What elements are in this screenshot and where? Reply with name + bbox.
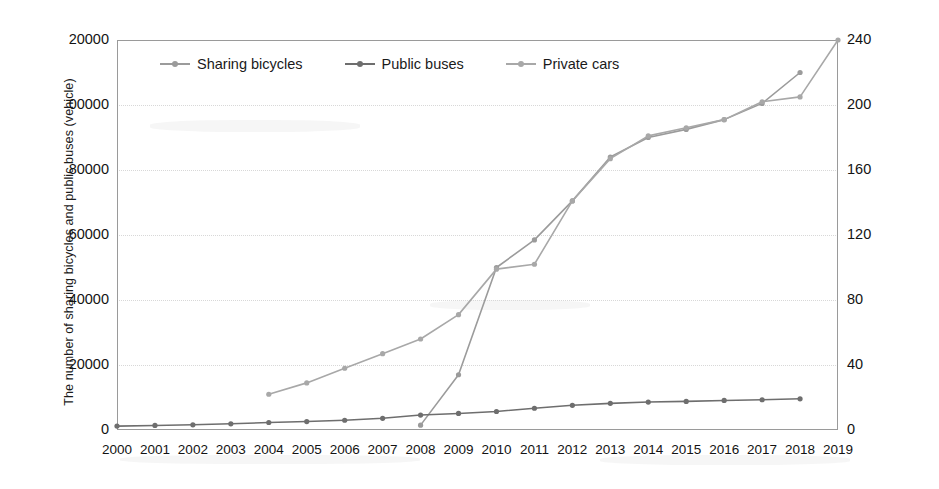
series-line (421, 73, 800, 426)
legend-label: Private cars (543, 56, 620, 72)
data-point-marker (380, 351, 385, 356)
y-tick-label-left: 20000 (0, 31, 109, 47)
data-point-marker (835, 37, 840, 42)
legend-marker-icon (506, 59, 536, 69)
y-tick-label-right: 160 (847, 161, 871, 177)
data-point-marker (494, 409, 499, 414)
data-point-marker (342, 366, 347, 371)
y-tick-label-left: 0 (0, 421, 109, 437)
data-point-marker (646, 399, 651, 404)
data-point-marker (304, 380, 309, 385)
data-point-marker (152, 423, 157, 428)
data-point-marker (722, 117, 727, 122)
data-point-marker (304, 419, 309, 424)
legend-item[interactable]: Sharing bicycles (160, 56, 303, 72)
data-point-marker (532, 237, 537, 242)
data-point-marker (342, 418, 347, 423)
data-point-marker (797, 70, 802, 75)
series-layer (117, 40, 838, 430)
data-point-marker (684, 125, 689, 130)
data-point-marker (532, 406, 537, 411)
data-point-marker (228, 421, 233, 426)
legend-label: Public buses (382, 56, 464, 72)
data-point-marker (266, 392, 271, 397)
legend: Sharing bicyclesPublic busesPrivate cars (160, 56, 619, 72)
data-point-marker (797, 94, 802, 99)
y-tick-label-right: 40 (847, 356, 863, 372)
y-tick-label-right: 200 (847, 96, 871, 112)
data-point-marker (456, 411, 461, 416)
plot-area (117, 40, 838, 430)
legend-item[interactable]: Private cars (506, 56, 620, 72)
data-point-marker (608, 156, 613, 161)
y-tick-label-right: 80 (847, 291, 863, 307)
data-point-marker (608, 401, 613, 406)
x-tick-label: 2019 (816, 442, 860, 457)
data-point-marker (456, 312, 461, 317)
legend-label: Sharing bicycles (197, 56, 303, 72)
data-point-marker (114, 424, 119, 429)
data-point-marker (380, 416, 385, 421)
data-point-marker (190, 422, 195, 427)
y-tick-label-right: 120 (847, 226, 871, 242)
y-tick-label-right: 240 (847, 31, 871, 47)
y-tick-label-left: 80000 (0, 161, 109, 177)
data-point-marker (646, 133, 651, 138)
data-point-marker (760, 397, 765, 402)
data-point-marker (418, 423, 423, 428)
y-tick-label-right: 0 (847, 421, 855, 437)
data-point-marker (570, 198, 575, 203)
data-point-marker (532, 262, 537, 267)
data-point-marker (570, 403, 575, 408)
y-tick-label-left: 20000 (0, 356, 109, 372)
data-point-marker (494, 267, 499, 272)
legend-marker-icon (345, 59, 375, 69)
legend-item[interactable]: Public buses (345, 56, 464, 72)
line-chart: The number of sharing bicycles and publi… (0, 0, 939, 489)
y-tick-label-left: 40000 (0, 291, 109, 307)
data-point-marker (760, 99, 765, 104)
data-point-marker (456, 372, 461, 377)
data-point-marker (266, 420, 271, 425)
data-point-marker (418, 412, 423, 417)
data-point-marker (722, 398, 727, 403)
y-tick-label-left: 60000 (0, 226, 109, 242)
data-point-marker (418, 336, 423, 341)
series-line (269, 40, 838, 394)
data-point-marker (684, 399, 689, 404)
data-point-marker (797, 396, 802, 401)
legend-marker-icon (160, 59, 190, 69)
y-tick-label-left: 00000 (0, 96, 109, 112)
